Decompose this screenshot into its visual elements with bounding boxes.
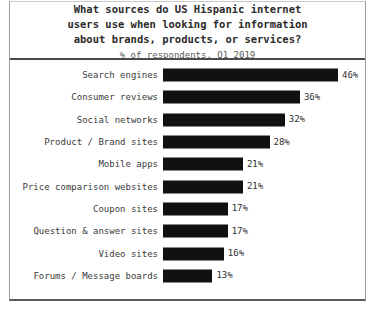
bar-category-label: Social networks: [10, 114, 158, 125]
bar-category-label: Consumer reviews: [10, 92, 158, 103]
bar-row[interactable]: Consumer reviews36%: [10, 86, 365, 108]
bar-fill[interactable]: [163, 136, 270, 149]
header-divider: [10, 58, 365, 60]
bar-fill[interactable]: [163, 202, 228, 215]
bar-fill[interactable]: [163, 247, 224, 260]
chart-subtitle: % of respondents, Q1 2019: [9, 48, 366, 63]
bar-track: 21%: [163, 158, 365, 171]
bar-track: 21%: [163, 180, 365, 193]
bar-track: 46%: [163, 69, 365, 82]
bar-fill[interactable]: [163, 113, 285, 126]
bar-category-label: Question & answer sites: [10, 226, 158, 237]
bar-category-label: Video sites: [10, 248, 158, 259]
bar-value-label: 17%: [228, 226, 248, 237]
bar-row[interactable]: Price comparison websites21%: [10, 176, 365, 198]
bar-category-label: Search engines: [10, 70, 158, 81]
bar-value-label: 21%: [243, 181, 263, 192]
bar-fill[interactable]: [163, 180, 243, 193]
bar-category-label: Forums / Message boards: [10, 270, 158, 281]
bar-value-label: 36%: [300, 92, 320, 103]
bar-value-label: 16%: [224, 248, 244, 259]
bar-track: 32%: [163, 113, 365, 126]
bar-value-label: 21%: [243, 159, 263, 170]
bar-value-label: 13%: [212, 270, 232, 281]
bar-value-label: 17%: [228, 203, 248, 214]
bar-fill[interactable]: [163, 91, 300, 104]
bar-row[interactable]: Product / Brand sites28%: [10, 131, 365, 153]
bar-row[interactable]: Forums / Message boards13%: [10, 265, 365, 287]
page-title-line-2: users use when looking for information: [9, 17, 366, 32]
bar-category-label: Coupon sites: [10, 203, 158, 214]
bar-row[interactable]: Social networks32%: [10, 109, 365, 131]
page-title-line-3: about brands, products, or services?: [9, 32, 366, 47]
bar-track: 17%: [163, 202, 365, 215]
page-title-line-1: What sources do US Hispanic internet: [9, 2, 366, 17]
bar-category-label: Mobile apps: [10, 159, 158, 170]
bar-track: 28%: [163, 136, 365, 149]
bar-row[interactable]: Video sites16%: [10, 242, 365, 264]
chart-plot-area: Search engines46%Consumer reviews36%Soci…: [10, 63, 365, 298]
bar-value-label: 32%: [285, 114, 305, 125]
bar-value-label: 46%: [338, 70, 358, 81]
bar-category-label: Price comparison websites: [10, 181, 158, 192]
bar-track: 16%: [163, 247, 365, 260]
bar-row[interactable]: Mobile apps21%: [10, 153, 365, 175]
bar-row[interactable]: Coupon sites17%: [10, 198, 365, 220]
bar-track: 17%: [163, 225, 365, 238]
bar-track: 13%: [163, 269, 365, 282]
bar-track: 36%: [163, 91, 365, 104]
bar-category-label: Product / Brand sites: [10, 137, 158, 148]
bar-fill[interactable]: [163, 225, 228, 238]
bar-fill[interactable]: [163, 269, 212, 282]
chart-title-block: What sources do US Hispanic internet use…: [9, 2, 366, 63]
bar-value-label: 28%: [270, 137, 290, 148]
bar-fill[interactable]: [163, 69, 338, 82]
bar-row[interactable]: Question & answer sites17%: [10, 220, 365, 242]
bar-fill[interactable]: [163, 158, 243, 171]
bar-row[interactable]: Search engines46%: [10, 64, 365, 86]
